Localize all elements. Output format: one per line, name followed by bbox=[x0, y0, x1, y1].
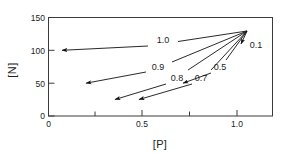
y-tick-label-100: 100 bbox=[31, 46, 45, 56]
y-tick-label-50: 50 bbox=[36, 79, 46, 89]
y-tick-label-150: 150 bbox=[31, 13, 45, 23]
chart-canvas: 150 100 50 0 0 0.5 1.0 1.0 bbox=[0, 0, 289, 154]
arrow-0-9-head bbox=[86, 72, 146, 83]
arrow-1-0-head bbox=[62, 46, 148, 50]
arrow-0-8-head bbox=[115, 84, 166, 100]
x-tick-label-05: 0.5 bbox=[136, 119, 148, 129]
x-axis-ticks bbox=[49, 110, 238, 116]
arrow-1-0: 1.0 bbox=[62, 31, 247, 50]
x-tick-label-0: 0 bbox=[46, 119, 51, 129]
arrow-label-0-1: 0.1 bbox=[250, 40, 263, 50]
arrow-label-0-9: 0.9 bbox=[152, 62, 165, 72]
arrow-label-1-0: 1.0 bbox=[157, 35, 170, 45]
arrow-label-0-5: 0.5 bbox=[214, 62, 227, 72]
y-axis-tick-labels: 150 100 50 0 bbox=[31, 13, 45, 121]
arrow-0-7-head bbox=[139, 84, 192, 100]
x-tick-label-10: 1.0 bbox=[231, 119, 243, 129]
chart-figure: 150 100 50 0 0 0.5 1.0 1.0 bbox=[0, 0, 289, 154]
y-axis-ticks bbox=[49, 18, 55, 117]
arrow-1-0-tail bbox=[178, 31, 247, 42]
y-tick-label-0: 0 bbox=[40, 111, 45, 121]
x-axis-title: [P] bbox=[153, 138, 168, 150]
y-axis-title: [N] bbox=[6, 62, 18, 77]
arrow-label-0-8: 0.8 bbox=[171, 73, 184, 83]
x-axis-tick-labels: 0 0.5 1.0 bbox=[46, 119, 243, 129]
